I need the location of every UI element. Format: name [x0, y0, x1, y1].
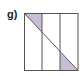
divided-square-diagram: [0, 0, 80, 76]
diagonal-line: [25, 14, 79, 71]
